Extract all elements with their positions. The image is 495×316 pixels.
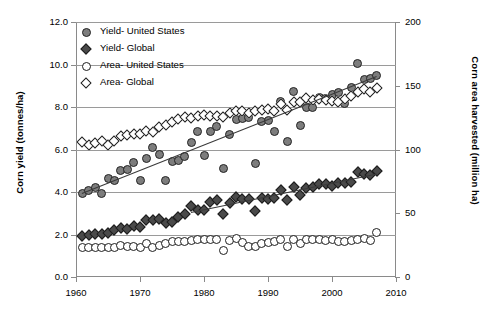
data-point [251,159,260,168]
gridline [76,150,396,151]
tickmark [395,213,400,214]
legend-marker-icon [82,62,91,71]
tickmark [332,277,333,282]
axis-tick-label: 100 [405,144,437,155]
tickmark [396,277,397,282]
axis-tick-label: 150 [405,80,437,91]
axis-tick-label: 2000 [312,287,352,298]
tickmark [395,22,400,23]
legend-label: Area- United States [100,59,184,70]
data-point [212,122,221,131]
data-point [200,151,209,160]
legend-item: Yield- United States [86,24,256,41]
tickmark [395,86,400,87]
tickmark [76,277,77,282]
legend-label: Yield- Global [100,42,155,53]
data-point [212,235,221,244]
legend-item: Area- United States [86,58,256,75]
tickmark [71,150,76,151]
figure-caption [150,306,490,316]
data-point [219,164,228,173]
axis-tick-label: 1990 [248,287,288,298]
axis-tick-label: 0.0 [36,271,68,282]
tickmark [71,107,76,108]
tickmark [71,65,76,66]
data-point [136,176,145,185]
x-axis-line [76,276,396,277]
axis-tick-label: 6.0 [36,144,68,155]
axis-tick-label: 1960 [56,287,96,298]
data-point [353,59,362,68]
data-point [366,236,375,245]
y-axis-left-title: Corn yield (tonnes/ha) [14,68,25,218]
data-point [142,154,151,163]
tickmark [395,150,400,151]
chart-figure: Corn yield (tonnes/ha) Corn area harvest… [0,0,495,316]
data-point [193,127,202,136]
data-point [155,150,164,159]
tickmark [140,277,141,282]
data-point [161,176,170,185]
axis-tick-label: 4.0 [36,186,68,197]
data-point [372,71,381,80]
data-point [296,121,305,130]
data-point [250,205,261,216]
gridline [76,22,396,23]
data-point [129,158,138,167]
legend-marker-icon [82,28,91,37]
legend-item: Area- Global [86,75,256,92]
data-point [218,208,229,219]
legend: Yield- United StatesYield- GlobalArea- U… [86,24,256,92]
data-point [270,127,279,136]
tickmark [268,277,269,282]
data-point [283,137,292,146]
tickmark [71,22,76,23]
tickmark [71,192,76,193]
data-point [97,189,106,198]
data-point [187,138,196,147]
y-axis-right-title: Corn area harvested (million ha) [470,56,481,206]
axis-tick-label: 0 [405,271,437,282]
axis-tick-label: 12.0 [36,16,68,27]
axis-tick-label: 2.0 [36,229,68,240]
axis-tick-label: 1980 [184,287,224,298]
legend-label: Yield- United States [100,25,184,36]
legend-label: Area- Global [100,76,154,87]
axis-tick-label: 200 [405,16,437,27]
axis-tick-label: 50 [405,207,437,218]
axis-tick-label: 8.0 [36,101,68,112]
axis-tick-label: 10.0 [36,59,68,70]
data-point [372,228,381,237]
tickmark [204,277,205,282]
axis-tick-label: 1970 [120,287,160,298]
axis-tick-label: 2010 [376,287,416,298]
trend-line [191,173,377,213]
data-point [219,246,228,255]
data-point [282,194,293,205]
legend-item: Yield- Global [86,41,256,58]
